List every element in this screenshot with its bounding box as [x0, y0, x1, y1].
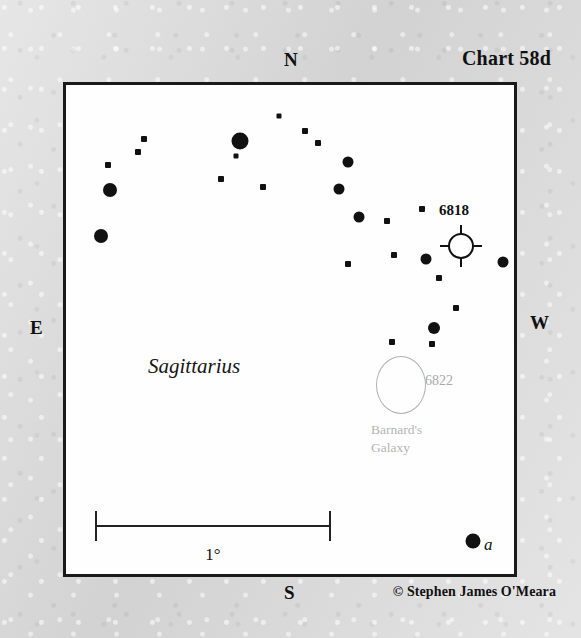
star-marker — [345, 261, 351, 267]
star-marker — [453, 305, 459, 311]
cardinal-south-label: S — [284, 583, 295, 602]
star-marker — [384, 218, 390, 224]
star-marker — [343, 157, 354, 168]
star-marker — [429, 341, 435, 347]
scale-bar — [95, 511, 331, 541]
star-marker — [421, 254, 432, 265]
chart-frame — [63, 82, 517, 577]
galaxy-name-line1: Barnard's — [371, 422, 422, 439]
constellation-label: Sagittarius — [148, 356, 240, 377]
star-marker-labeled — [466, 534, 481, 549]
star-marker — [234, 154, 239, 159]
scale-bar-cap-right — [329, 511, 331, 541]
scale-bar-rule — [95, 525, 331, 527]
star-field — [66, 85, 514, 574]
star-marker — [103, 183, 117, 197]
cardinal-north-label: N — [284, 50, 298, 69]
galaxy-outline-6822 — [376, 356, 426, 414]
star-marker — [498, 257, 509, 268]
star-marker — [436, 275, 442, 281]
star-marker — [94, 229, 108, 243]
star-marker — [135, 149, 141, 155]
star-marker — [302, 128, 308, 134]
galaxy-name-line2: Galaxy — [371, 440, 410, 457]
object-label-6822: 6822 — [425, 374, 453, 388]
star-marker — [105, 162, 111, 168]
object-label-6818: 6818 — [439, 203, 469, 218]
star-chart-page: Chart 58d N S E W Sagittarius 6818 6822 … — [0, 0, 581, 638]
cardinal-west-label: W — [530, 313, 550, 332]
cardinal-east-label: E — [30, 318, 43, 337]
star-marker — [428, 322, 440, 334]
scale-label: 1° — [95, 545, 331, 565]
copyright-notice: © Stephen James O'Meara — [393, 585, 556, 599]
star-marker — [389, 339, 395, 345]
chart-title: Chart 58d — [462, 48, 551, 68]
star-marker — [141, 136, 147, 142]
star-marker — [354, 212, 365, 223]
star-marker — [419, 206, 425, 212]
planetary-nebula-symbol — [440, 225, 482, 267]
star-label-a: a — [484, 536, 493, 553]
star-marker — [260, 184, 266, 190]
scale-bar-cap-left — [95, 511, 97, 541]
star-marker — [315, 140, 321, 146]
star-marker — [232, 133, 249, 150]
star-marker — [391, 252, 397, 258]
star-marker — [334, 184, 345, 195]
star-marker — [218, 176, 224, 182]
star-marker — [277, 114, 282, 119]
